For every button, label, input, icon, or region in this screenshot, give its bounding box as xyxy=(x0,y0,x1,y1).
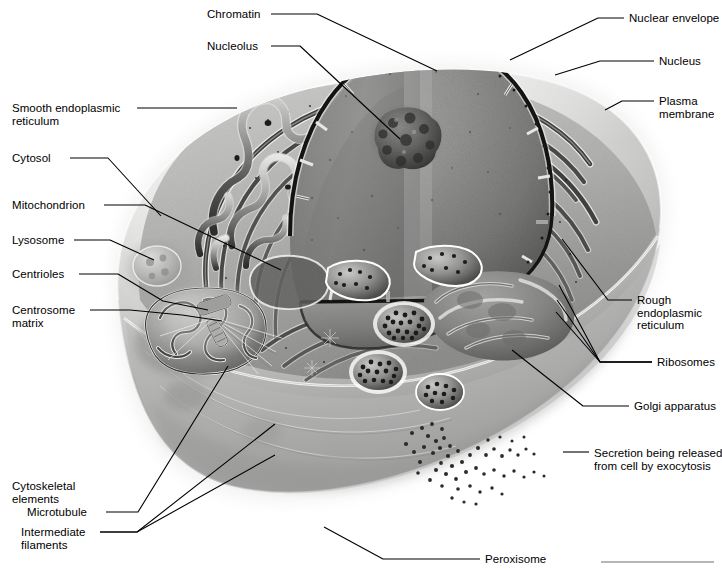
label-secretion-exocytosis: Secretion being releasedfrom cell by exo… xyxy=(594,447,722,472)
label-line: Nucleolus xyxy=(207,40,258,53)
label-line: Centrosome xyxy=(12,304,75,317)
label-line: Lysosome xyxy=(12,234,64,247)
label-line: Secretion being released xyxy=(594,447,722,460)
leader-nucleus xyxy=(555,61,654,75)
label-chromatin: Chromatin xyxy=(207,8,261,21)
label-nucleus: Nucleus xyxy=(659,55,701,68)
label-line: Chromatin xyxy=(207,8,261,21)
label-mitochondrion: Mitochondrion xyxy=(12,199,85,212)
label-line: elements xyxy=(12,493,75,506)
label-line: membrane xyxy=(659,108,714,121)
label-line: Nucleus xyxy=(659,55,701,68)
label-line: endoplasmic xyxy=(637,307,702,320)
label-intermediate-filaments: Intermediatefilaments xyxy=(21,526,86,551)
label-smooth-er: Smooth endoplasmicreticulum xyxy=(12,102,120,127)
label-line: Smooth endoplasmic xyxy=(12,102,120,115)
label-line: matrix xyxy=(12,317,75,330)
label-line: Mitochondrion xyxy=(12,199,85,212)
label-line: Ribosomes xyxy=(657,356,715,369)
label-line: filaments xyxy=(21,539,86,552)
label-line: Peroxisome xyxy=(485,553,546,566)
label-line: Plasma xyxy=(659,95,714,108)
label-cytosol: Cytosol xyxy=(12,152,51,165)
label-line: Intermediate xyxy=(21,526,86,539)
leader-nuclear-envelope xyxy=(510,18,624,60)
label-line: Golgi apparatus xyxy=(634,400,716,413)
label-line: Microtubule xyxy=(27,506,87,519)
bottom-rule xyxy=(601,561,714,563)
label-nuclear-envelope: Nuclear envelope xyxy=(629,12,719,25)
label-nucleolus: Nucleolus xyxy=(207,40,258,53)
label-centrosome-matrix: Centrosomematrix xyxy=(12,304,75,329)
peroxisome-body xyxy=(302,500,358,544)
label-centrioles: Centrioles xyxy=(12,268,64,281)
label-ribosomes: Ribosomes xyxy=(657,356,715,369)
leader-chromatin xyxy=(271,14,437,71)
label-line: reticulum xyxy=(12,115,120,128)
cell-diagram-figure: ChromatinNucleolusSmooth endoplasmicreti… xyxy=(0,0,722,572)
label-line: Nuclear envelope xyxy=(629,12,719,25)
label-rough-er: Roughendoplasmicreticulum xyxy=(637,294,702,332)
label-cytoskeletal-elements: Cytoskeletalelements xyxy=(12,480,75,505)
label-plasma-membrane: Plasmamembrane xyxy=(659,95,714,120)
label-peroxisome: Peroxisome xyxy=(485,553,546,566)
label-line: reticulum xyxy=(637,319,702,332)
label-line: Centrioles xyxy=(12,268,64,281)
label-line: Rough xyxy=(637,294,702,307)
label-line: from cell by exocytosis xyxy=(594,460,722,473)
label-lysosome: Lysosome xyxy=(12,234,64,247)
label-golgi-apparatus: Golgi apparatus xyxy=(634,400,716,413)
cell-illustration xyxy=(0,0,722,572)
label-line: Cytoskeletal xyxy=(12,480,75,493)
label-microtubule: Microtubule xyxy=(27,506,87,519)
leader-peroxisome xyxy=(324,527,480,559)
label-line: Cytosol xyxy=(12,152,51,165)
